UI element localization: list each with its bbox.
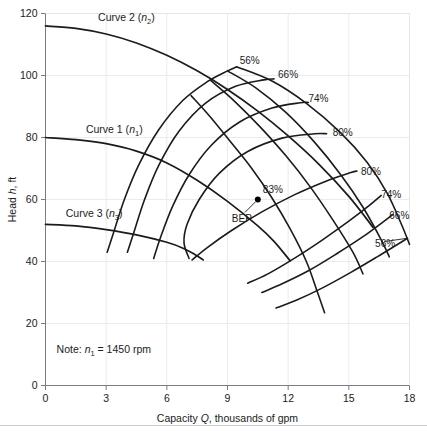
chart-background: [0, 0, 427, 431]
x-tick-label: 12: [282, 392, 294, 404]
performance-curve-chart: 0369121518020406080100120 56%66%74%80%80…: [0, 0, 427, 431]
efficiency-label-upper-80-3: 80%: [333, 127, 353, 138]
y-tick-label: 100: [20, 69, 38, 81]
bep-label: BEP: [232, 213, 252, 224]
efficiency-label-upper-66-1: 66%: [278, 69, 298, 80]
x-tick-label: 15: [343, 392, 355, 404]
efficiency-label-lower-80-4: 80%: [361, 166, 381, 177]
efficiency-label-lower-56-7: 56%: [375, 238, 395, 249]
y-axis-title: Head h, ft: [6, 177, 18, 223]
x-tick-label: 3: [103, 392, 109, 404]
pump-performance-chart-figure: 0369121518020406080100120 56%66%74%80%80…: [0, 0, 427, 431]
x-tick-label: 18: [404, 392, 416, 404]
x-tick-label: 6: [164, 392, 170, 404]
x-tick-label: 9: [225, 392, 231, 404]
efficiency-label-upper-74-2: 74%: [308, 93, 328, 104]
bep-efficiency-label: 83%: [263, 184, 283, 195]
figure-bottom-border: [0, 425, 427, 431]
efficiency-label-lower-66-6: 66%: [389, 210, 409, 221]
y-tick-label: 40: [26, 255, 38, 267]
x-tick-label: 0: [43, 392, 49, 404]
efficiency-label-upper-56-0: 56%: [240, 55, 260, 66]
x-axis-title: Capacity Q, thousands of gpm: [157, 412, 299, 424]
y-tick-label: 80: [26, 131, 38, 143]
y-tick-label: 60: [26, 193, 38, 205]
y-tick-label: 120: [20, 7, 38, 19]
bep-marker-dot: [255, 197, 261, 203]
y-tick-label: 20: [26, 317, 38, 329]
efficiency-label-lower-74-5: 74%: [381, 189, 401, 200]
y-tick-label: 0: [32, 379, 38, 391]
